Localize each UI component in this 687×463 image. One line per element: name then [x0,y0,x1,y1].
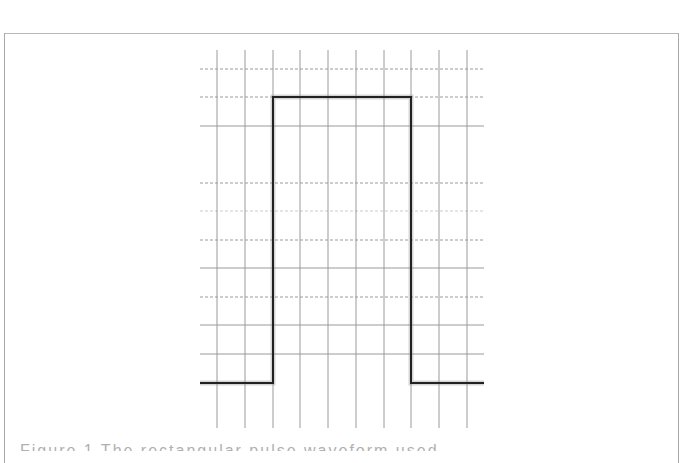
horizontal-gridlines [200,69,484,354]
figure-caption-cropped: Figure 1 The rectangular pulse waveform … [20,441,670,451]
vertical-gridlines [217,50,467,428]
